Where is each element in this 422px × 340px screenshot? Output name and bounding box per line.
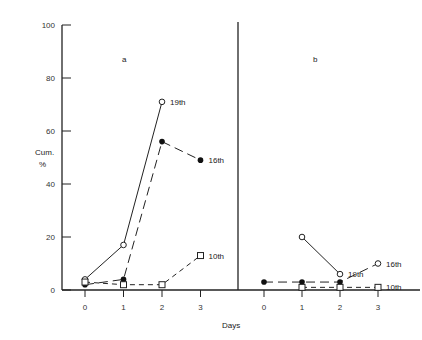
series-layer: 19th16th10th19th16th10th (82, 98, 402, 293)
open-square-marker (375, 284, 381, 290)
x-tick-label: 2 (338, 303, 343, 312)
series-line-19th (85, 102, 162, 280)
open-circle-marker (337, 271, 343, 277)
x-tick-label: 3 (376, 303, 381, 312)
open-square-marker (337, 284, 343, 290)
panel-a-label: a (122, 55, 127, 64)
y-axis-label-line2: % (39, 160, 46, 169)
x-tick-label: 2 (160, 303, 165, 312)
open-square-marker (82, 279, 88, 285)
y-axis-label-line1: Cum. (35, 148, 54, 157)
filled-circle-marker (198, 157, 204, 163)
y-tick-label: 40 (46, 180, 55, 189)
x-axis-label: Days (222, 321, 240, 330)
open-circle-marker (159, 99, 165, 105)
axes (62, 22, 420, 290)
x-tick-label: 1 (300, 303, 305, 312)
series-label: 10th (386, 283, 402, 292)
open-square-marker (159, 282, 165, 288)
y-tick-label: 0 (51, 286, 56, 295)
series-line-10th (85, 256, 201, 285)
series-label: 10th (209, 252, 225, 261)
y-tick-label: 80 (46, 74, 55, 83)
x-tick-label: 1 (121, 303, 126, 312)
series-label: 19th (170, 98, 186, 107)
open-circle-marker (375, 261, 381, 267)
y-tick-label: 100 (42, 21, 56, 30)
x-ticks: 01230123 (83, 290, 381, 312)
y-tick-label: 20 (46, 233, 55, 242)
open-square-marker (198, 253, 204, 259)
line-chart: 020406080100 01230123 Cum. % Days a b 19… (0, 0, 422, 340)
open-circle-marker (121, 242, 127, 248)
open-square-marker (121, 282, 127, 288)
x-tick-label: 0 (262, 303, 267, 312)
filled-circle-marker (159, 139, 165, 145)
series-line-19th (302, 237, 340, 274)
x-tick-label: 0 (83, 303, 88, 312)
y-ticks: 020406080100 (42, 21, 71, 295)
panel-b-label: b (313, 55, 318, 64)
open-circle-marker (299, 234, 305, 240)
filled-circle-marker (261, 279, 267, 285)
series-label: 16th (386, 260, 402, 269)
open-square-marker (299, 284, 305, 290)
series-label: 16th (209, 156, 225, 165)
x-tick-label: 3 (198, 303, 203, 312)
y-tick-label: 60 (46, 127, 55, 136)
